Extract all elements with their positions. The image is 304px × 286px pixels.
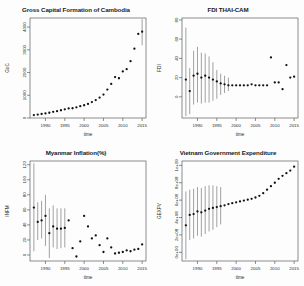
svg-text:2000: 2000 xyxy=(231,123,241,128)
svg-text:1000: 1000 xyxy=(22,90,27,100)
svg-text:40: 40 xyxy=(22,222,27,227)
panel-bottom-left: Myanmar Inflation(%) 1990199520002005201… xyxy=(0,143,152,286)
svg-text:120: 120 xyxy=(22,161,27,169)
svg-text:2010: 2010 xyxy=(118,266,128,271)
svg-text:0: 0 xyxy=(22,116,27,119)
svg-text:time: time xyxy=(84,132,93,137)
svg-text:GEXPV: GEXPV xyxy=(157,202,162,219)
svg-text:8e+08: 8e+08 xyxy=(174,176,179,189)
svg-text:2010: 2010 xyxy=(270,123,280,128)
svg-text:20: 20 xyxy=(174,75,179,80)
svg-text:1995: 1995 xyxy=(212,123,222,128)
svg-text:1990: 1990 xyxy=(193,266,203,271)
svg-text:2015: 2015 xyxy=(137,266,147,271)
svg-text:80: 80 xyxy=(174,17,179,22)
svg-text:1995: 1995 xyxy=(60,266,70,271)
svg-text:GoC: GoC xyxy=(5,63,10,73)
plot-top-left: 1990199520002005201020150100020003000400… xyxy=(0,0,152,143)
figure-canvas: Gross Capital Formation of Cambodia 1990… xyxy=(0,0,304,286)
svg-text:60: 60 xyxy=(22,207,27,212)
svg-text:2005: 2005 xyxy=(99,123,109,128)
svg-text:0: 0 xyxy=(174,95,179,98)
svg-text:2005: 2005 xyxy=(251,266,261,271)
svg-text:2015: 2015 xyxy=(289,123,299,128)
plot-bottom-right: 1990199520002005201020150e+002e+084e+086… xyxy=(152,143,304,286)
svg-text:2010: 2010 xyxy=(270,266,280,271)
svg-text:20: 20 xyxy=(22,237,27,242)
svg-text:2005: 2005 xyxy=(251,123,261,128)
svg-text:2010: 2010 xyxy=(118,123,128,128)
svg-text:4000: 4000 xyxy=(22,22,27,32)
svg-text:2005: 2005 xyxy=(99,266,109,271)
svg-text:1990: 1990 xyxy=(41,266,51,271)
svg-text:1e+09: 1e+09 xyxy=(174,159,179,172)
svg-text:2015: 2015 xyxy=(137,123,147,128)
svg-text:2015: 2015 xyxy=(289,266,299,271)
svg-text:2e+08: 2e+08 xyxy=(174,228,179,241)
plot-bottom-left: 199019952000200520102015020406080100120I… xyxy=(0,143,152,286)
svg-text:1995: 1995 xyxy=(212,266,222,271)
svg-text:2000: 2000 xyxy=(231,266,241,271)
svg-text:FDI: FDI xyxy=(157,64,162,71)
svg-text:40: 40 xyxy=(174,55,179,60)
svg-text:0e+00: 0e+00 xyxy=(174,246,179,259)
svg-text:0: 0 xyxy=(22,253,27,256)
svg-text:6e+08: 6e+08 xyxy=(174,193,179,206)
svg-text:time: time xyxy=(236,132,245,137)
svg-text:2000: 2000 xyxy=(79,266,89,271)
svg-text:time: time xyxy=(84,275,93,280)
panel-top-right: FDI THAI-CAM 199019952000200520102015020… xyxy=(152,0,304,143)
svg-text:INFM: INFM xyxy=(5,205,10,216)
svg-text:1995: 1995 xyxy=(60,123,70,128)
svg-text:2000: 2000 xyxy=(22,67,27,77)
svg-text:2000: 2000 xyxy=(79,123,89,128)
svg-text:4e+08: 4e+08 xyxy=(174,211,179,224)
svg-text:time: time xyxy=(236,275,245,280)
svg-text:80: 80 xyxy=(22,192,27,197)
panel-bottom-right: Vietnam Government Expenditure 199019952… xyxy=(152,143,304,286)
svg-text:60: 60 xyxy=(174,36,179,41)
panel-top-left: Gross Capital Formation of Cambodia 1990… xyxy=(0,0,152,143)
svg-text:100: 100 xyxy=(22,176,27,184)
svg-text:1990: 1990 xyxy=(193,123,203,128)
svg-text:3000: 3000 xyxy=(22,44,27,54)
plot-top-right: 199019952000200520102015020406080FDItime xyxy=(152,0,304,143)
svg-text:1990: 1990 xyxy=(41,123,51,128)
